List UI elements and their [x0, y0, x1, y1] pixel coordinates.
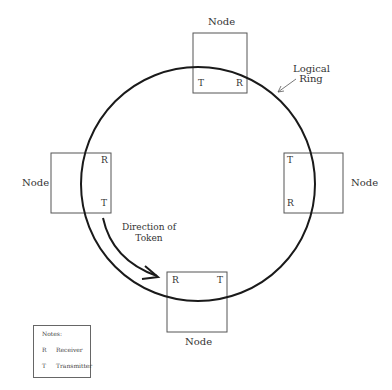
logical-ring-label: Logical Ring: [293, 64, 329, 84]
node-label-right: Node: [351, 178, 378, 188]
notes-value-transmitter: Transmitter: [56, 363, 92, 369]
port-transmitter-right: T: [287, 156, 293, 165]
node-label-bottom: Node: [185, 337, 212, 347]
port-receiver-bottom: R: [172, 276, 179, 285]
node-label-top: Node: [208, 17, 235, 27]
notes-legend: Notes: R Receiver T Transmitter: [33, 325, 91, 378]
port-receiver-top: R: [236, 79, 243, 88]
port-transmitter-bottom: T: [217, 276, 223, 285]
logical-ring-label-line2: Ring: [293, 74, 329, 84]
notes-key-t: T: [42, 363, 46, 369]
logical-ring: [81, 67, 315, 301]
port-transmitter-left: T: [101, 199, 107, 208]
direction-label-line1: Direction of: [116, 222, 182, 233]
notes-title: Notes:: [42, 331, 62, 337]
direction-of-token-label: Direction of Token: [116, 222, 182, 244]
port-receiver-left: R: [101, 156, 108, 165]
notes-value-receiver: Receiver: [56, 347, 83, 353]
direction-label-line2: Token: [116, 233, 182, 244]
node-label-left: Node: [22, 178, 49, 188]
notes-key-r: R: [42, 347, 47, 353]
port-transmitter-top: T: [198, 79, 204, 88]
port-receiver-right: R: [287, 199, 294, 208]
